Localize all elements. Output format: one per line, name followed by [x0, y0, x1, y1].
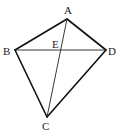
- label-d: D: [108, 45, 116, 57]
- geometry-diagram: A B D C E: [0, 0, 123, 135]
- label-a: A: [64, 4, 72, 16]
- segment-bc: [15, 50, 47, 117]
- segment-ab: [15, 19, 67, 50]
- label-c: C: [42, 120, 49, 132]
- label-e: E: [52, 38, 59, 50]
- segment-ac: [47, 19, 67, 117]
- segment-ad: [67, 19, 106, 50]
- label-b: B: [3, 45, 10, 57]
- segment-dc: [47, 50, 106, 117]
